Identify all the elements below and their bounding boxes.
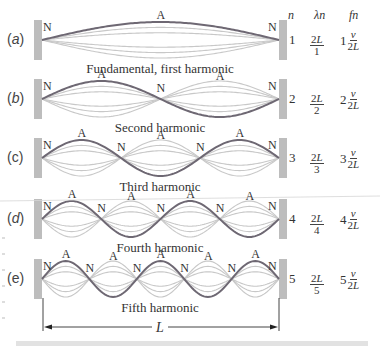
harmonic-caption: Fundamental, first harmonic [40,61,280,77]
node-label: N [133,261,142,276]
left-support [34,259,42,299]
arrowhead-left-icon [44,325,52,330]
wavelength-formula: 2L2 [310,88,324,116]
row-label: (b) [7,90,24,106]
node-label: N [268,138,277,153]
node-label: N [117,140,126,155]
harmonic-number: 1 [289,32,296,48]
row-label: (a) [7,31,24,47]
left-support [34,199,42,239]
harmonic-number: 3 [289,150,296,166]
node-label: N [97,201,106,216]
node-label: N [157,201,166,216]
antinode-label: A [68,187,77,202]
node-label: N [216,201,225,216]
antinode-label: A [109,249,118,264]
arrowhead-right-icon [270,325,278,330]
antinode-label: A [186,187,195,202]
frequency-formula: 2v2L [340,88,359,111]
envelope-curve [42,145,279,170]
antinode-label: A [78,126,87,141]
footer-bar [16,341,368,346]
right-support [279,259,287,299]
antinode-label: A [97,67,106,82]
node-label: N [157,81,166,96]
antinode-label: A [216,69,225,84]
wavelength-formula: 2L1 [310,29,324,57]
node-label: N [196,140,205,155]
left-support [34,79,42,119]
header-n: n [288,8,294,23]
antinode-label: A [204,249,213,264]
right-support [279,20,287,60]
string-wave [42,22,279,40]
antinode-label: A [236,126,245,141]
node-label: N [43,138,52,153]
envelope-curve [42,151,279,165]
header-frequency: fn [349,8,358,23]
frequency-formula: 4v2L [340,208,359,231]
harmonic-number: 5 [289,271,296,287]
envelope-curve [42,40,279,53]
node-label: N [268,20,277,35]
harmonic-caption: Fifth harmonic [40,300,280,316]
node-label: N [268,79,277,94]
node-label: N [43,79,52,94]
wavelength-formula: 2L4 [310,208,324,236]
antinode-label: A [157,247,166,262]
node-label: N [43,259,52,274]
row-label: (d) [7,210,24,226]
node-label: N [180,261,189,276]
node-label: N [268,199,277,214]
frequency-formula: 1v2L [340,29,359,52]
frequency-formula: 3v2L [340,147,359,170]
row-label: (e) [7,270,24,286]
antinode-label: A [127,189,136,204]
wavelength-formula: 2L5 [310,268,324,296]
right-support [279,138,287,178]
antinode-label: A [62,247,71,262]
antinode-label: A [157,8,166,23]
antinode-label: A [157,128,166,143]
envelope-curve [42,40,279,58]
antinode-label: A [251,247,260,262]
node-label: N [43,199,52,214]
node-label: N [268,259,277,274]
node-label: N [228,261,237,276]
envelope-curve [42,27,279,40]
wavelength-formula: 2L3 [310,147,324,175]
harmonic-number: 4 [289,211,296,227]
envelope-curve [42,145,279,170]
header-lambda: λn [314,8,325,23]
length-label: L [152,320,168,336]
harmonic-number: 2 [289,91,296,107]
envelope-curve [42,151,279,165]
right-support [279,79,287,119]
right-support [279,199,287,239]
row-label: (c) [7,149,23,165]
frequency-formula: 5v2L [340,268,359,291]
node-label: N [85,261,94,276]
left-support [34,138,42,178]
antinode-label: A [245,189,254,204]
left-support [34,20,42,60]
node-label: N [43,20,52,35]
